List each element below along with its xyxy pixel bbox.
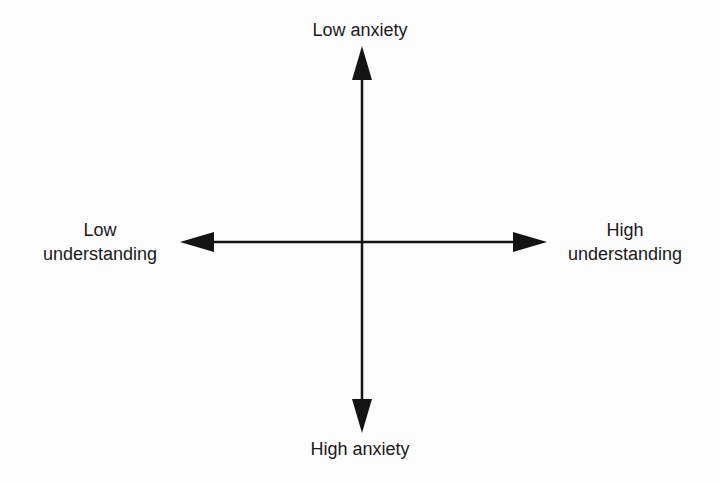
right-axis-label-line-1: High [540, 218, 710, 242]
top-axis-label-text: Low anxiety [260, 18, 460, 42]
top-axis-label: Low anxiety [260, 18, 460, 42]
left-axis-label-line-1: Low [20, 218, 180, 242]
bottom-axis-label-text: High anxiety [260, 437, 460, 461]
bottom-axis-label: High anxiety [260, 437, 460, 461]
arrow-up-icon [352, 46, 372, 80]
arrow-down-icon [352, 399, 372, 433]
left-axis-label-line-2: understanding [20, 242, 180, 266]
arrow-left-icon [180, 232, 214, 252]
left-axis-label: Low understanding [20, 218, 180, 266]
right-axis-label-line-2: understanding [540, 242, 710, 266]
right-axis-label: High understanding [540, 218, 710, 266]
